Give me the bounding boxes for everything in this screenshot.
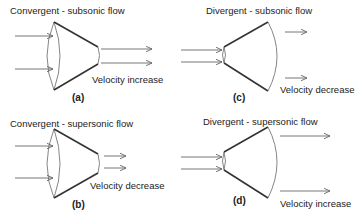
panel-a-title: Convergent - subsonic flow [10, 5, 125, 16]
panel-c-result-label: Velocity decrease [280, 84, 354, 95]
panel-a-tag: (a) [72, 92, 84, 103]
panel-b-result-label: Velocity decrease [90, 180, 164, 191]
outlet-arrows [280, 136, 330, 191]
panel-d-tag: (d) [233, 195, 246, 206]
panel-c-tag: (c) [233, 92, 245, 103]
panel-b-tag: (b) [72, 199, 85, 210]
panel-a-result-label: Velocity increase [92, 74, 163, 85]
panel-b-title: Convergent - supersonic flow [10, 118, 133, 129]
outlet-arrows [285, 32, 307, 78]
inlet-arrows [181, 157, 222, 169]
panel-b-convergent-supersonic: Convergent - supersonic flow Velocity de… [10, 118, 164, 210]
outlet-arrows [101, 49, 152, 63]
inlet-arrows [181, 50, 222, 62]
panel-d-result-label: Velocity increase [280, 198, 351, 209]
divergent-nozzle-shape [223, 22, 278, 91]
panel-d-divergent-supersonic: Divergent - supersonic flow Velocity inc… [181, 116, 351, 209]
panel-d-title: Divergent - supersonic flow [203, 116, 318, 127]
panel-c-title: Divergent - subsonic flow [206, 5, 312, 16]
nozzle-flow-diagram: Convergent - subsonic flow Velocity incr… [0, 0, 360, 220]
panel-a-convergent-subsonic: Convergent - subsonic flow Velocity incr… [10, 5, 163, 103]
panel-c-divergent-subsonic: Divergent - subsonic flow Velocity decre… [181, 5, 354, 103]
divergent-nozzle-shape [223, 127, 278, 198]
outlet-arrows [104, 156, 126, 168]
